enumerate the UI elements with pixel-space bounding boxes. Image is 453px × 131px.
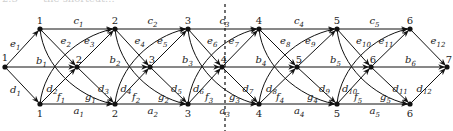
node-mid-6 — [368, 64, 373, 69]
node-top-2-label: 2 — [112, 15, 118, 26]
node-mid-6-label: 6 — [370, 54, 376, 65]
label-g2: g2 — [158, 91, 169, 105]
label-f4: f4 — [275, 91, 284, 105]
node-top-1 — [37, 26, 42, 31]
label-b6: b6 — [405, 54, 416, 68]
label-e9: e9 — [305, 35, 316, 49]
node-bottom-6-label: 6 — [407, 108, 413, 119]
edge-e5 — [150, 31, 186, 67]
node-top-2 — [112, 26, 117, 31]
label-d4: d4 — [121, 83, 132, 97]
label-f3: f3 — [204, 91, 214, 105]
label-c3: c3 — [220, 15, 231, 29]
node-bottom-1-label: 1 — [37, 108, 43, 119]
node-mid-4 — [219, 64, 224, 69]
label-c2: c2 — [148, 15, 159, 29]
node-top-4 — [256, 26, 261, 31]
edge-e3 — [77, 31, 113, 67]
label-b1: b1 — [36, 55, 47, 69]
graph-diagram: e1d1b1c1a1b2e2d2e3d3f1g1c2a2b3e4d4e5d5f2… — [0, 0, 453, 131]
node-bottom-2 — [112, 101, 117, 106]
node-mid-2-label: 2 — [76, 54, 82, 65]
label-d7: d7 — [243, 83, 254, 97]
label-e7: e7 — [229, 35, 240, 49]
node-mid-7 — [444, 64, 449, 69]
label-c4: c4 — [294, 15, 304, 29]
node-top-5 — [334, 26, 339, 31]
node-bottom-5-label: 5 — [334, 108, 340, 119]
node-bottom-5 — [334, 101, 339, 106]
node-bottom-2-label: 2 — [112, 108, 118, 119]
node-top-1-label: 1 — [37, 15, 43, 26]
node-mid-3-label: 3 — [149, 54, 155, 65]
node-top-3 — [185, 26, 190, 31]
label-e1: e1 — [10, 38, 20, 52]
label-d9: d9 — [319, 83, 330, 97]
label-g5: g5 — [380, 91, 391, 105]
node-bottom-3-label: 3 — [185, 108, 191, 119]
node-mid-5 — [294, 64, 299, 69]
label-c1: c1 — [74, 15, 84, 29]
label-d1: d1 — [10, 84, 21, 98]
node-top-6 — [407, 26, 412, 31]
node-mid-4-label: 4 — [221, 54, 227, 65]
label-e3: e3 — [84, 35, 95, 49]
node-top-4-label: 4 — [256, 15, 262, 26]
label-a5: a5 — [370, 105, 381, 119]
label-f2: f2 — [131, 91, 141, 105]
label-g4: g4 — [307, 91, 318, 105]
label-g1: g1 — [85, 91, 96, 105]
label-e10: e10 — [356, 35, 371, 49]
node-bottom-3 — [185, 101, 190, 106]
label-a2: a2 — [148, 105, 159, 119]
node-bottom-4-label: 4 — [256, 108, 262, 119]
node-bottom-4 — [256, 101, 261, 106]
node-start — [2, 64, 7, 69]
label-e2: e2 — [61, 35, 72, 49]
label-a1: a1 — [74, 105, 84, 119]
edge-e11 — [371, 31, 408, 67]
label-b4: b4 — [256, 54, 267, 68]
label-a4: a4 — [294, 105, 304, 119]
label-e12: e12 — [431, 35, 446, 49]
label-d11: d11 — [393, 83, 408, 97]
node-bottom-1 — [37, 101, 42, 106]
node-mid-5-label: 5 — [296, 54, 302, 65]
label-e6: e6 — [207, 35, 218, 49]
label-a3: a3 — [220, 105, 231, 119]
label-d6: d6 — [193, 83, 204, 97]
label-e4: e4 — [135, 35, 145, 49]
label-b2: b2 — [110, 54, 121, 68]
label-d5: d5 — [171, 83, 182, 97]
node-top-5-label: 5 — [334, 15, 340, 26]
node-mid-2 — [74, 64, 79, 69]
label-b5: b5 — [330, 54, 341, 68]
node-bottom-6 — [407, 101, 412, 106]
edge-e7 — [222, 31, 257, 67]
label-c5: c5 — [370, 15, 381, 29]
label-g3: g3 — [229, 91, 240, 105]
node-mid-3 — [147, 64, 152, 69]
node-mid-7-label: 7 — [446, 54, 452, 65]
edge-d12 — [410, 69, 445, 104]
label-e5: e5 — [157, 35, 168, 49]
node-top-6-label: 6 — [407, 15, 413, 26]
label-b3: b3 — [182, 54, 193, 68]
label-d3: d3 — [98, 83, 109, 97]
label-f5: f5 — [353, 91, 363, 105]
node-top-3-label: 3 — [185, 15, 191, 26]
label-f1: f1 — [56, 91, 65, 105]
node-start-label: 1 — [2, 52, 8, 63]
label-e8: e8 — [280, 35, 291, 49]
